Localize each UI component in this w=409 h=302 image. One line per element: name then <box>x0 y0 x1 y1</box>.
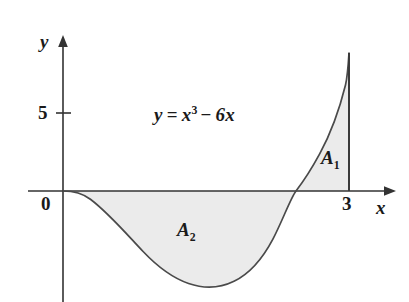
region-a2-subscript: 2 <box>190 231 196 244</box>
region-label-a2: A2 <box>177 220 196 239</box>
y-axis-arrowhead <box>58 35 68 47</box>
region-a1-symbol: A <box>321 147 334 168</box>
equation-equals: = <box>167 104 178 125</box>
equation-minus: − <box>200 104 211 125</box>
shaded-region-a1 <box>296 53 349 191</box>
equation-exponent: 3 <box>191 104 197 117</box>
region-label-a1: A1 <box>321 148 340 167</box>
plot-svg <box>0 0 409 302</box>
region-a2-symbol: A <box>177 219 190 240</box>
y-axis-label: y <box>40 32 48 51</box>
equation-term: 6x <box>216 104 235 125</box>
x-axis-label: x <box>376 198 386 217</box>
equation-base: x <box>182 104 192 125</box>
x-tick-label-3: 3 <box>342 194 352 213</box>
origin-label: 0 <box>41 194 51 213</box>
equation-annotation: y=x3−6x <box>154 105 235 124</box>
x-axis-arrowhead <box>384 186 396 196</box>
equation-lhs: y <box>154 104 163 125</box>
y-tick-label-5: 5 <box>38 103 48 122</box>
figure-canvas: y x 5 0 3 y=x3−6x A1 A2 <box>0 0 409 302</box>
region-a1-subscript: 1 <box>334 159 340 172</box>
